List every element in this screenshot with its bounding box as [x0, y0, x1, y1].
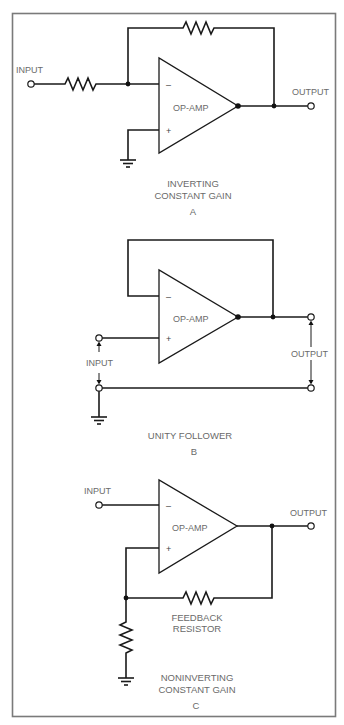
ground-icon [91, 417, 107, 424]
caption-line-1: INVERTING [167, 178, 219, 189]
circuit-b-unity-follower: – + OP-AMP INPUT OUTPUT UNITY FOLLOWER B [86, 240, 329, 457]
output-label: OUTPUT [292, 87, 330, 97]
circuit-a-inverting: – + OP-AMP INPUT OUTPUT INVERTING CONSTA… [16, 22, 330, 217]
ground-wire [128, 130, 159, 160]
input-common-terminal [96, 385, 102, 391]
caption-line-2: CONSTANT GAIN [158, 684, 235, 695]
output-common-terminal [308, 385, 314, 391]
output-terminal [308, 523, 314, 529]
input-label: INPUT [16, 65, 44, 75]
op-amp-label: OP-AMP [173, 314, 209, 324]
op-amp-label: OP-AMP [173, 103, 209, 113]
input-terminal [28, 81, 34, 87]
circuit-c-noninverting: – + OP-AMP INPUT OUTPUT FEEDBACK RESISTO… [84, 480, 328, 711]
junction-dot [126, 82, 131, 87]
junction-dot [235, 103, 241, 109]
output-label: OUTPUT [291, 349, 329, 359]
circuit-letter: A [190, 206, 197, 217]
output-terminal [308, 314, 314, 320]
op-amp-label: OP-AMP [172, 523, 208, 533]
plus-input-wire [126, 548, 159, 598]
junction-dot [124, 596, 129, 601]
caption-line-1: NONINVERTING [161, 672, 234, 683]
circuit-letter: C [193, 700, 200, 711]
caption-line-2: CONSTANT GAIN [154, 190, 231, 201]
feedback-resistor-label-line-1: FEEDBACK [171, 612, 223, 623]
junction-dot [272, 104, 277, 109]
minus-input-sign: – [166, 80, 171, 90]
junction-dot [271, 315, 276, 320]
junction-dot [235, 314, 241, 320]
feedback-resistor-label-line-2: RESISTOR [173, 623, 222, 634]
circuit-letter: B [191, 446, 197, 457]
output-label: OUTPUT [290, 508, 328, 518]
ground-icon [118, 678, 134, 685]
input-label: INPUT [84, 486, 112, 496]
plus-input-sign: + [166, 334, 171, 344]
minus-input-sign: – [166, 292, 171, 302]
ground-icon [120, 160, 136, 167]
op-amp-circuits-diagram: – + OP-AMP INPUT OUTPUT INVERTING CONSTA… [0, 0, 344, 725]
input-wire [34, 78, 159, 90]
caption-line-1: UNITY FOLLOWER [148, 430, 232, 441]
input-label: INPUT [86, 358, 114, 368]
plus-input-sign: + [166, 544, 171, 554]
junction-dot [270, 524, 275, 529]
ground-resistor-wire [120, 598, 132, 678]
plus-input-sign: + [166, 126, 171, 136]
input-terminal [96, 502, 102, 508]
input-terminal [96, 335, 102, 341]
output-terminal [308, 103, 314, 109]
minus-input-sign: – [166, 501, 171, 511]
